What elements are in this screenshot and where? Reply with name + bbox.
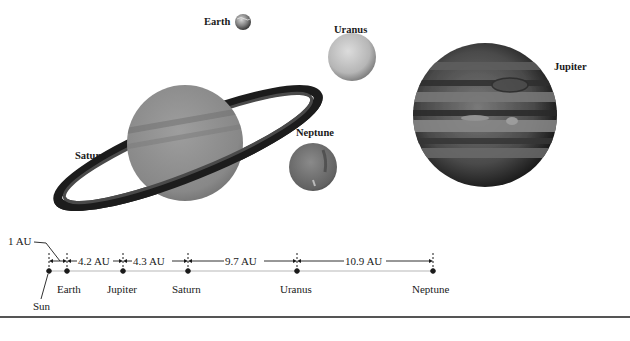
label-jupiter: Jupiter (554, 61, 587, 73)
segment-jupiter-saturn: 4.3 AU (133, 255, 165, 267)
segment-uranus-neptune: 10.9 AU (345, 255, 382, 267)
scale-label-neptune: Neptune (412, 283, 449, 295)
uranus-image (328, 33, 376, 81)
scale-label-sun: Sun (33, 300, 50, 312)
jupiter-image (410, 43, 570, 187)
neptune-image (289, 143, 337, 191)
label-uranus: Uranus (334, 24, 367, 36)
earth-image (235, 14, 251, 30)
scale-label-jupiter: Jupiter (107, 283, 137, 295)
scale-note-1au: 1 AU (8, 235, 32, 247)
saturn-image (48, 70, 329, 227)
planet-illustrations (0, 0, 630, 341)
segment-earth-jupiter: 4.2 AU (78, 255, 110, 267)
scale-label-earth: Earth (57, 283, 81, 295)
scale-label-uranus: Uranus (280, 283, 312, 295)
bottom-divider (0, 316, 630, 318)
label-neptune: Neptune (296, 127, 334, 139)
label-earth: Earth (204, 16, 230, 28)
distance-scale (34, 242, 435, 299)
label-saturn: Saturn (75, 150, 106, 162)
segment-saturn-uranus: 9.7 AU (225, 255, 257, 267)
scale-label-saturn: Saturn (172, 283, 201, 295)
